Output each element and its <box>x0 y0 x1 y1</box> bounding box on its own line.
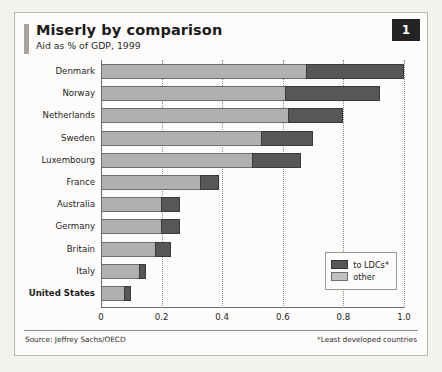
bar-row <box>101 175 404 190</box>
bar-segment-other <box>101 264 140 279</box>
x-axis-tick-label: 0.4 <box>215 312 229 322</box>
category-label: Norway <box>21 86 95 101</box>
category-label: Netherlands <box>21 108 95 123</box>
bar-segment-ldc <box>200 175 219 190</box>
bar-segment-ldc <box>124 286 131 301</box>
title-accent-bar <box>24 24 29 54</box>
legend-label: other <box>353 272 375 282</box>
bar-row <box>101 153 404 168</box>
bar-segment-ldc <box>261 131 314 146</box>
bar-row <box>101 131 404 146</box>
bar-segment-other <box>101 242 156 257</box>
bar-segment-ldc <box>161 219 180 234</box>
bar-row <box>101 86 404 101</box>
category-label: Britain <box>21 242 95 257</box>
bar-segment-other <box>101 131 262 146</box>
bar-segment-other <box>101 64 307 79</box>
chart-subtitle: Aid as % of GDP, 1999 <box>36 40 141 51</box>
x-axis-tick-label: 0.2 <box>155 312 169 322</box>
x-axis-tick-label: 0.6 <box>276 312 290 322</box>
x-axis-tick-label: 0 <box>98 312 103 322</box>
bar-segment-ldc <box>139 264 146 279</box>
bar-segment-ldc <box>306 64 404 79</box>
bar-row <box>101 64 404 79</box>
page-background: Miserly by comparison Aid as % of GDP, 1… <box>0 0 442 372</box>
chart-legend: to LDCs*other <box>325 252 397 290</box>
bar-segment-other <box>101 175 201 190</box>
page-title: Miserly by comparison <box>36 22 222 38</box>
x-axis-tick-label: 0.8 <box>337 312 351 322</box>
legend-item: other <box>331 272 389 282</box>
chart-card: Miserly by comparison Aid as % of GDP, 1… <box>14 12 428 356</box>
x-axis-tick-label: 1.0 <box>397 312 411 322</box>
legend-swatch-other <box>331 272 348 281</box>
bar-row <box>101 108 404 123</box>
bar-segment-other <box>101 86 286 101</box>
bar-segment-other <box>101 219 162 234</box>
category-label: Denmark <box>21 64 95 79</box>
legend-label: to LDCs* <box>353 260 389 270</box>
bar-segment-other <box>101 153 253 168</box>
bar-segment-ldc <box>161 197 180 212</box>
footnote-text: *Least developed countries <box>317 335 417 344</box>
bar-segment-other <box>101 108 289 123</box>
bar-row <box>101 219 404 234</box>
x-axis-line <box>101 307 404 308</box>
legend-swatch-ldc <box>331 260 348 269</box>
category-label: Germany <box>21 219 95 234</box>
category-label: United States <box>21 286 95 301</box>
category-label: France <box>21 175 95 190</box>
bar-segment-ldc <box>285 86 380 101</box>
bar-segment-ldc <box>288 108 344 123</box>
bar-segment-ldc <box>252 153 301 168</box>
category-label: Sweden <box>21 131 95 146</box>
chart-plot-area: 00.20.40.60.81.0DenmarkNorwayNetherlands… <box>101 60 404 308</box>
bar-segment-ldc <box>155 242 171 257</box>
category-label: Australia <box>21 197 95 212</box>
figure-number-badge: 1 <box>392 19 420 41</box>
category-label: Italy <box>21 264 95 279</box>
footer-divider <box>24 330 418 331</box>
bar-segment-other <box>101 286 125 301</box>
bar-row <box>101 197 404 212</box>
legend-item: to LDCs* <box>331 260 389 270</box>
source-text: Source: Jeffrey Sachs/OECD <box>25 335 126 344</box>
bar-segment-other <box>101 197 162 212</box>
category-label: Luxembourg <box>21 153 95 168</box>
gridline <box>404 60 405 308</box>
